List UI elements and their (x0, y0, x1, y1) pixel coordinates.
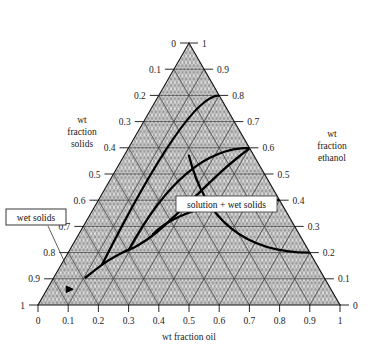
left-tick-6: 0.6 (74, 196, 86, 206)
right-tick-5: 0.5 (278, 170, 290, 180)
right-tick-4: 0.4 (293, 196, 305, 206)
bottom-tick-10: 1 (338, 316, 343, 326)
bottom-tick-9: 0.9 (304, 316, 316, 326)
right-tick-6: 0.6 (262, 143, 274, 153)
right-tick-7: 0.7 (247, 117, 259, 127)
right-tick-0: 0 (353, 301, 358, 311)
left-tick-4: 0.4 (104, 143, 116, 153)
ternary-diagram-figure: 00.10.20.30.40.50.60.70.80.9100.10.20.30… (0, 0, 377, 349)
left-tick-0: 0 (171, 39, 176, 49)
bottom-tick-5: 0.5 (183, 316, 195, 326)
left-tick-9: 0.9 (28, 274, 40, 284)
bottom-tick-1: 0.1 (62, 316, 74, 326)
right-tick-10: 1 (202, 39, 207, 49)
bottom-axis-title: wt fraction oil (162, 332, 216, 342)
left-tick-5: 0.5 (89, 170, 101, 180)
bottom-tick-6: 0.6 (213, 316, 225, 326)
right-tick-2: 0.2 (323, 248, 335, 258)
solution-wet-solids-label: solution + wet solids (187, 200, 266, 210)
right-axis-title-line1: wt (327, 129, 337, 139)
left-tick-2: 0.2 (134, 91, 146, 101)
right-tick-3: 0.3 (308, 222, 320, 232)
left-tick-1: 0.1 (149, 65, 161, 75)
ternary-plot-canvas: 00.10.20.30.40.50.60.70.80.9100.10.20.30… (0, 0, 377, 349)
bottom-tick-3: 0.3 (123, 316, 135, 326)
left-axis-title-line2: fraction (67, 127, 97, 137)
bottom-tick-7: 0.7 (243, 316, 255, 326)
left-tick-10: 1 (20, 301, 25, 311)
right-tick-9: 0.9 (217, 65, 229, 75)
left-axis-title-line3: solids (71, 139, 93, 149)
left-tick-3: 0.3 (119, 117, 131, 127)
right-tick-8: 0.8 (232, 91, 244, 101)
right-tick-1: 0.1 (338, 274, 350, 284)
bottom-tick-8: 0.8 (274, 316, 286, 326)
right-axis-title-line3: ethanol (318, 153, 346, 163)
wet-solids-label: wet solids (17, 213, 56, 223)
bottom-tick-4: 0.4 (153, 316, 165, 326)
bottom-tick-2: 0.2 (92, 316, 104, 326)
left-axis-title-line1: wt (77, 115, 87, 125)
right-axis-title-line2: fraction (317, 141, 347, 151)
bottom-tick-0: 0 (36, 316, 41, 326)
left-tick-8: 0.8 (43, 248, 55, 258)
